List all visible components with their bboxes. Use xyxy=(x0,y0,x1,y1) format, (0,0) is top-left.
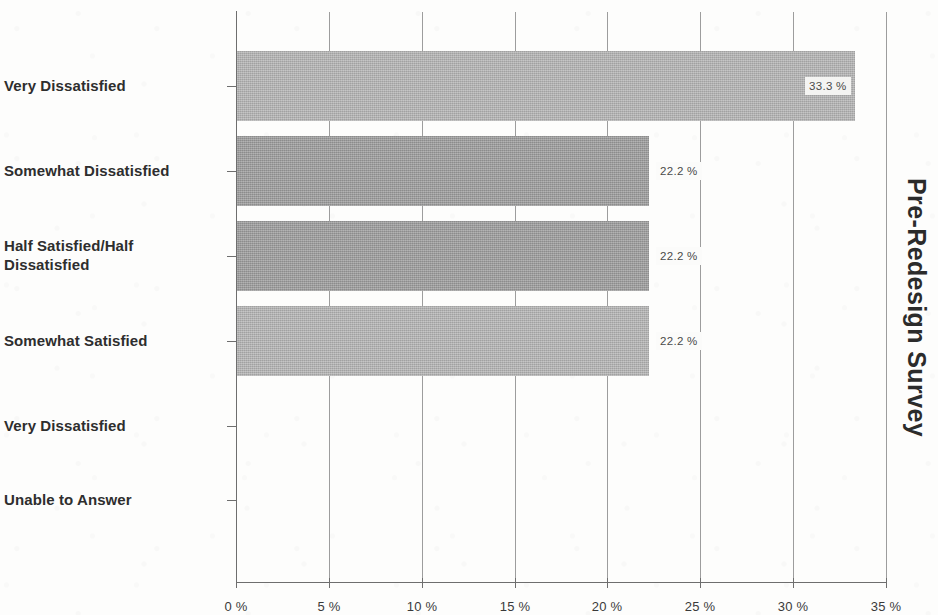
x-tick-25 xyxy=(700,578,701,588)
chart-title-text: Pre-Redesign Survey xyxy=(902,178,931,437)
x-tick-label-5: 5 % xyxy=(317,599,340,614)
chart-title: Pre-Redesign Survey xyxy=(895,0,938,615)
x-tick-10 xyxy=(422,578,423,588)
bar-half-satisfied-half-dissatisfied xyxy=(237,221,649,291)
gridline-35 xyxy=(886,12,887,583)
category-label-very-dissatisfied-bottom: Very Dissatisfied xyxy=(4,417,230,436)
x-axis-line xyxy=(236,582,886,583)
y-tick-4 xyxy=(227,426,237,427)
bar-somewhat-satisfied xyxy=(237,306,649,376)
x-tick-top-0 xyxy=(236,11,237,20)
category-label-unable-to-answer: Unable to Answer xyxy=(4,491,230,510)
x-tick-label-10: 10 % xyxy=(407,599,437,614)
y-tick-5 xyxy=(227,500,237,501)
x-tick-label-15: 15 % xyxy=(500,599,530,614)
y-tick-3 xyxy=(227,341,237,342)
bar-value-label-1: 22.2 % xyxy=(656,162,702,180)
bar-value-label-2: 22.2 % xyxy=(656,247,702,265)
x-tick-15 xyxy=(515,578,516,588)
bar-value-label-0: 33.3 % xyxy=(805,77,851,95)
x-tick-35 xyxy=(886,578,887,588)
x-tick-30 xyxy=(793,578,794,588)
x-tick-5 xyxy=(329,578,330,588)
x-tick-label-30: 30 % xyxy=(778,599,808,614)
category-label-somewhat-dissatisfied: Somewhat Dissatisfied xyxy=(4,162,230,181)
bar-very-dissatisfied-top xyxy=(237,51,855,121)
plot-area: 0 % 5 % 10 % 15 % 20 % 25 % 30 % 35 % 33… xyxy=(236,12,886,583)
category-label-very-dissatisfied-top: Very Dissatisfied xyxy=(4,77,230,96)
bar-value-label-3: 22.2 % xyxy=(656,332,702,350)
x-tick-20 xyxy=(607,578,608,588)
y-tick-0 xyxy=(227,86,237,87)
category-label-somewhat-satisfied: Somewhat Satisfied xyxy=(4,332,230,351)
x-tick-label-25: 25 % xyxy=(685,599,715,614)
category-axis-labels: Very Dissatisfied Somewhat Dissatisfied … xyxy=(0,0,232,615)
chart-figure: Very Dissatisfied Somewhat Dissatisfied … xyxy=(0,0,938,615)
category-label-half-satisfied-half-dissatisfied: Half Satisfied/Half Dissatisfied xyxy=(4,237,230,275)
y-tick-2 xyxy=(227,256,237,257)
x-tick-label-0: 0 % xyxy=(224,599,247,614)
bar-somewhat-dissatisfied xyxy=(237,136,649,206)
x-tick-label-20: 20 % xyxy=(592,599,622,614)
y-tick-1 xyxy=(227,171,237,172)
x-tick-0 xyxy=(236,578,237,588)
